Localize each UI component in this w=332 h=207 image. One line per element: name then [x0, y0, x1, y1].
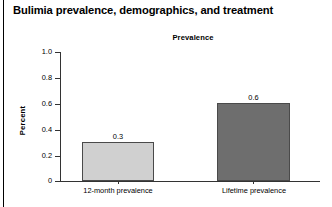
bar-12-month-prevalence[interactable]: 0.3	[82, 142, 154, 181]
chart-title: Prevalence	[0, 33, 332, 42]
x-axis-label-0: 12-month prevalence	[58, 186, 178, 196]
x-axis-label-1: Lifetime prevalence	[194, 186, 314, 196]
bar-lifetime-prevalence[interactable]: 0.6	[217, 103, 290, 181]
y-tick-label: 0.8	[42, 73, 52, 82]
y-tick-label: 1.0	[42, 47, 52, 56]
y-axis-title: Percent	[14, 96, 30, 146]
y-axis-title-text: Percent	[18, 100, 27, 142]
chart-title-text: Prevalence	[172, 33, 213, 42]
y-tick: 0.6	[55, 104, 60, 105]
x-tick	[253, 181, 254, 184]
y-tick: 1.0	[55, 52, 60, 53]
bar-value-label: 0.3	[83, 132, 153, 141]
y-tick-label: 0	[48, 176, 52, 185]
x-axis-line	[60, 181, 320, 182]
y-tick: 0.4	[55, 130, 60, 131]
bar-value-label: 0.6	[218, 93, 289, 102]
y-axis-line	[60, 52, 61, 182]
prevalence-bar-chart: Prevalence Percent 1.0 0.8 0.6 0.4 0.2 0…	[0, 0, 332, 207]
y-tick-label: 0.2	[42, 151, 52, 160]
y-tick-label: 0.4	[42, 125, 52, 134]
x-tick	[118, 181, 119, 184]
y-tick: 0.2	[55, 156, 60, 157]
y-tick: 0	[55, 181, 60, 182]
y-tick-label: 0.6	[42, 99, 52, 108]
y-tick: 0.8	[55, 78, 60, 79]
